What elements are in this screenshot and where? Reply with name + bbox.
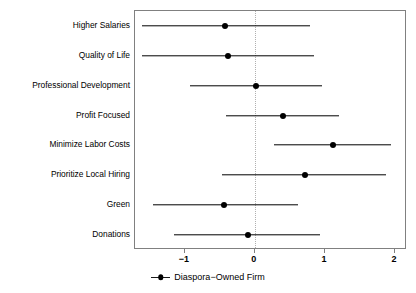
y-axis-label: Green xyxy=(0,199,130,209)
point-estimate-marker xyxy=(280,113,286,119)
x-axis-tick-label: 0 xyxy=(251,254,256,265)
x-axis-tick-label: 1 xyxy=(321,254,326,265)
legend-label: Diaspora−Owned Firm xyxy=(174,272,264,283)
x-axis-tick xyxy=(394,249,395,253)
y-axis-label: Higher Salaries xyxy=(0,20,130,30)
y-axis-label: Quality of Life xyxy=(0,50,130,60)
y-axis-label: Minimize Labor Costs xyxy=(0,139,130,149)
y-axis-category-labels: Higher SalariesQuality of LifeProfession… xyxy=(0,10,130,249)
legend-marker-icon xyxy=(151,274,170,281)
x-axis-tick xyxy=(324,249,325,253)
point-estimate-marker xyxy=(330,142,336,148)
y-axis-label: Donations xyxy=(0,229,130,239)
x-axis-tick-label: −1 xyxy=(179,254,189,265)
y-axis-label: Prioritize Local Hiring xyxy=(0,169,130,179)
coefficient-plot: Higher SalariesQuality of LifeProfession… xyxy=(0,0,416,293)
x-axis-tick xyxy=(254,249,255,253)
x-axis-tick xyxy=(184,249,185,253)
x-axis-tick-label: 2 xyxy=(392,254,397,265)
point-estimate-marker xyxy=(221,202,227,208)
point-estimate-marker xyxy=(222,23,228,29)
y-axis-label: Profit Focused xyxy=(0,110,130,120)
chart-legend: Diaspora−Owned Firm xyxy=(0,267,416,287)
plot-area xyxy=(134,10,406,249)
zero-reference-line xyxy=(255,11,256,248)
point-estimate-marker xyxy=(253,83,259,89)
point-estimate-marker xyxy=(225,53,231,59)
point-estimate-marker xyxy=(302,172,308,178)
point-estimate-marker xyxy=(245,232,251,238)
y-axis-label: Professional Development xyxy=(0,80,130,90)
